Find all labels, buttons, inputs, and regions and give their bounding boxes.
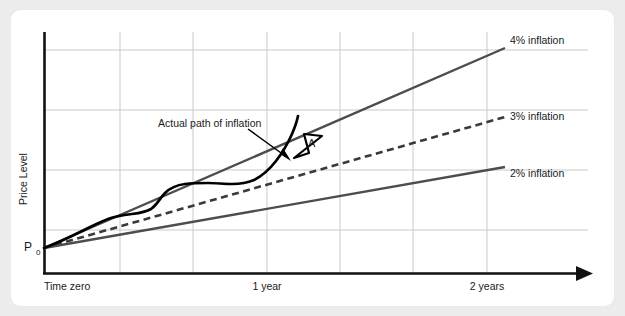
point-a-label: A (308, 137, 316, 149)
series-line-3-percent (44, 117, 505, 248)
x-tick-label-two-years: 2 years (470, 280, 504, 292)
callout-arrow-head-icon (280, 148, 291, 161)
figure-root: Price Level P 0 Time zero 1 year 2 years… (0, 0, 625, 316)
origin-label: P (24, 240, 32, 254)
series-line-2-percent (44, 167, 505, 248)
y-axis-title: Price Level (17, 153, 29, 205)
series-label-4-percent: 4% inflation (510, 34, 564, 46)
x-tick-label-time-zero: Time zero (44, 280, 90, 292)
series-label-2-percent: 2% inflation (510, 167, 564, 179)
callout-label-actual-path: Actual path of inflation (158, 117, 261, 129)
series-label-3-percent: 3% inflation (510, 110, 564, 122)
x-axis-arrow-icon (576, 266, 593, 281)
inflation-path-chart: Price Level P 0 Time zero 1 year 2 years… (0, 0, 625, 316)
x-tick-label-one-year: 1 year (252, 280, 282, 292)
origin-sublabel: 0 (36, 248, 41, 257)
series-curve-actual-path (44, 116, 298, 248)
grid-lines (44, 32, 588, 273)
axes (43, 32, 593, 281)
